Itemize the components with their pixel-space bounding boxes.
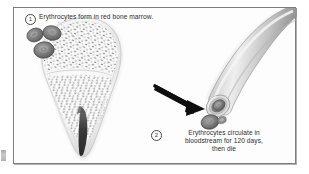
- callout-1-text: Erythrocytes form in red bone marrow.: [39, 13, 153, 21]
- scan-artifact: [1, 150, 6, 161]
- illustration-canvas: 1 Erythrocytes form in red bone marrow. …: [14, 8, 297, 165]
- callout-1-number: 1: [25, 14, 36, 25]
- callout-2-number: 2: [151, 130, 162, 141]
- blood-vessel: [200, 8, 297, 131]
- callout-2-text: Erythrocytes circulate in bloodstream fo…: [165, 129, 283, 152]
- figure-root: 1 Erythrocytes form in red bone marrow. …: [0, 0, 309, 174]
- callout-2: 2 Erythrocytes circulate in bloodstream …: [151, 129, 283, 152]
- figure-frame: 1 Erythrocytes form in red bone marrow. …: [13, 7, 296, 164]
- flow-arrow: [154, 85, 205, 116]
- callout-1: 1 Erythrocytes form in red bone marrow.: [25, 13, 153, 25]
